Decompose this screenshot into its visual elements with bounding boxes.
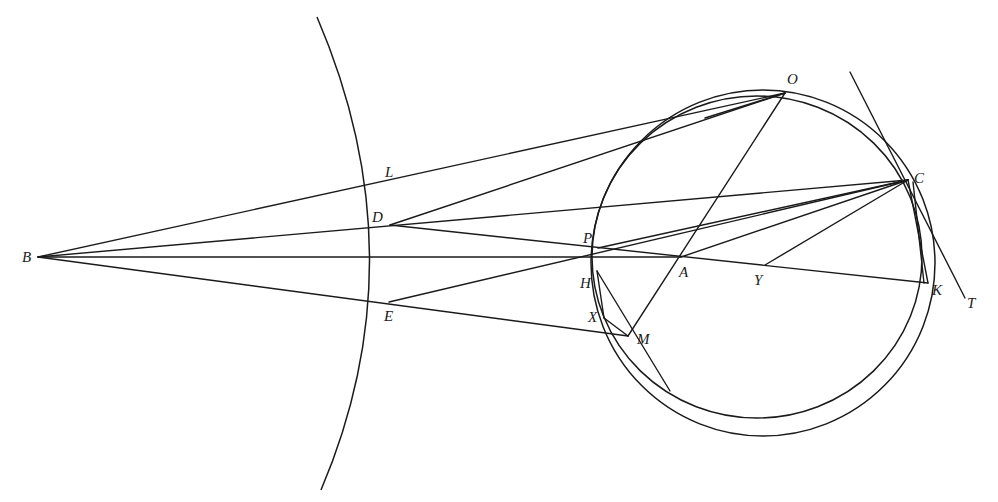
diagram-canvas: B L D E O C P H X M A Y K T — [0, 0, 998, 502]
line-P-C — [598, 180, 908, 248]
label-Y: Y — [754, 272, 764, 288]
line-B-M — [38, 257, 628, 336]
tangent-line — [850, 72, 965, 298]
label-M: M — [636, 331, 651, 347]
geometric-diagram: B L D E O C P H X M A Y K T — [0, 0, 998, 502]
label-A: A — [678, 264, 689, 280]
label-L: L — [384, 164, 393, 180]
label-D: D — [371, 209, 383, 225]
line-B-C — [38, 180, 908, 257]
line-A-C — [681, 180, 908, 257]
label-X: X — [587, 309, 598, 325]
label-K: K — [931, 282, 943, 298]
large-arc — [317, 17, 370, 490]
label-O: O — [787, 71, 798, 87]
label-P: P — [582, 230, 592, 246]
label-T: T — [967, 295, 977, 311]
label-H: H — [579, 275, 592, 291]
line-B-O — [38, 93, 785, 257]
line-E-C — [389, 180, 908, 302]
line-Y-C — [765, 180, 908, 265]
line-D-K — [390, 225, 928, 283]
label-B: B — [22, 249, 31, 265]
line-D-O — [390, 93, 785, 225]
label-C: C — [914, 170, 925, 186]
label-E: E — [383, 308, 393, 324]
